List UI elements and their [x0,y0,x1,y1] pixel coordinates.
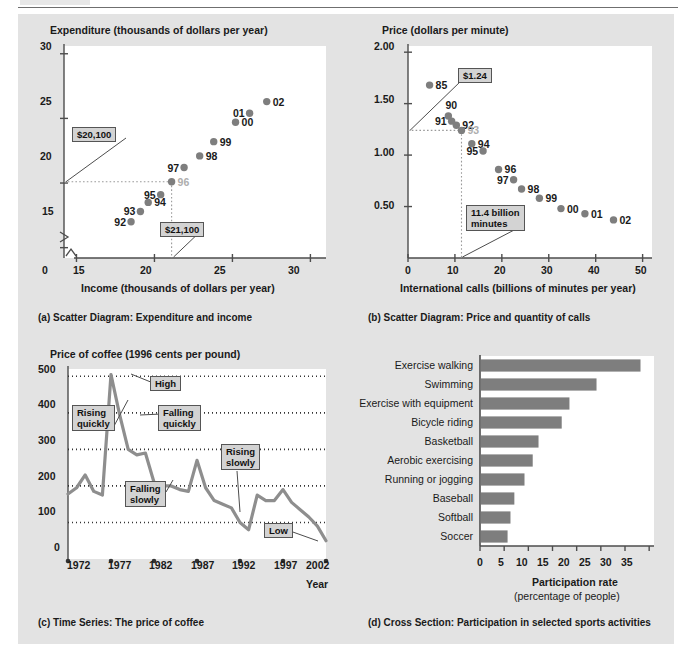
panel-d-bar-label-6: Aerobic exercising [387,454,473,466]
panel-d-graphics: Exercise walkingSwimmingExercise with eq… [346,334,674,644]
panel-a-point-01 [246,110,253,117]
panel-c-ytick-500: 500 [38,363,56,375]
panel-d-xtick-15: 15 [537,556,549,568]
panel-d-bar-label-2: Swimming [425,378,474,390]
panel-c-graphics [18,334,346,644]
panel-a-point-label-98: 98 [206,150,218,162]
panel-b-ytick-150: 1.50 [374,93,394,105]
panel-c-rising-quickly-callout: Rising quickly [72,405,115,431]
panel-b-xtick-20: 20 [494,264,506,276]
panel-d-bar-label-3: Exercise with equipment [359,397,473,409]
panel-d-bar-8 [481,492,514,504]
panel-b-xtick-0: 0 [405,264,411,276]
panel-d-bar-1 [481,359,641,371]
panel-c-high-callout: High [150,376,181,391]
panel-a-scatter-expenditure-income: Expenditure (thousands of dollars per ye… [18,14,346,334]
panel-d-bar-label-1: Exercise walking [395,359,473,371]
panel-b-quantity-leader [462,228,518,257]
panel-d-bar-5 [481,435,539,447]
panel-d-xtick-30: 30 [600,556,612,568]
panel-c-xtick-1987: 1987 [191,559,214,571]
panel-d-bar-label-5: Basketball [425,435,473,447]
panel-b-quantity-callout: 11.4 billion minutes [466,205,525,231]
panel-b-point-00 [557,205,564,212]
panel-d-x-axis-title-line2: (percentage of people) [514,590,620,602]
panel-b-ytick-100: 1.00 [374,146,394,158]
panel-d-xtick-25: 25 [579,556,591,568]
panel-a-point-92 [127,218,134,225]
panel-a-xtick-15: 15 [73,264,85,276]
panel-d-bar-4 [481,416,562,428]
panel-d-bar-6 [481,454,533,466]
panel-b-xtick-30: 30 [541,264,553,276]
page-top-rule [18,7,678,8]
panel-d-bar-label-7: Running or jogging [385,473,473,485]
panel-d-bar-label-4: Bicycle riding [411,416,473,428]
panel-c-ytick-400: 400 [38,398,56,410]
panel-c-ytick-300: 300 [38,434,56,446]
panel-b-scatter-price-quantity: Price (dollars per minute) 8590919293949… [346,14,674,334]
panel-b-x-axis-title: International calls (billions of minutes… [400,282,636,294]
panel-b-point-02 [610,216,617,223]
panel-c-rising-slowly-leader [237,471,240,512]
panel-a-xtick-20: 20 [140,264,152,276]
page-header-fragment [20,0,90,5]
panel-d-bar-2 [481,378,597,390]
panel-b-point-label-00: 00 [567,203,579,215]
panel-a-point-label-97: 97 [167,162,179,174]
panel-b-point-label-01: 01 [591,208,603,220]
panel-b-point-label-95: 95 [466,145,478,157]
panel-d-xtick-5: 5 [498,556,504,568]
panel-c-rising-slowly-callout: Rising slowly [221,444,260,470]
panel-c-timeseries-coffee: Price of coffee (1996 cents per pound) 5… [18,334,346,644]
panel-c-xtick-1997: 1997 [274,559,297,571]
panel-b-point-99 [536,195,543,202]
panel-a-ytick-30: 30 [40,40,52,52]
panel-c-ytick-0: 0 [54,541,60,553]
panel-a-xtick-30: 30 [288,264,300,276]
panel-a-xtick-0: 0 [42,264,48,276]
panel-a-expenditure-callout: $20,100 [72,127,116,142]
panel-b-xtick-40: 40 [588,264,600,276]
panel-d-bar-label-10: Soccer [440,530,473,542]
panel-a-point-00 [232,119,239,126]
panel-c-x-axis-title: Year [306,578,328,590]
panel-b-ytick-050: 0.50 [374,199,394,211]
panel-b-point-label-85: 85 [436,79,448,91]
panel-b-point-01 [581,210,588,217]
panel-a-point-02 [263,98,270,105]
panel-b-point-96 [495,166,502,173]
panel-b-point-label-02: 02 [620,214,632,226]
panel-a-ytick-20: 20 [40,150,52,162]
panel-c-low-leader [290,531,318,541]
panel-b-point-98 [518,185,525,192]
panel-a-xtick-25: 25 [214,264,226,276]
panel-a-point-label-92: 92 [114,216,126,228]
panel-c-xtick-1972: 1972 [67,559,90,571]
panel-b-point-label-91: 91 [435,115,447,127]
panel-d-bar-9 [481,511,510,523]
panel-d-xtick-10: 10 [516,556,528,568]
panel-b-point-label-90: 90 [446,99,458,111]
panel-a-point-label-02: 02 [273,96,285,108]
panel-a-point-label-99: 99 [220,136,232,148]
panel-b-price-callout: $1.24 [458,68,492,83]
panel-c-xtick-2002: 2002 [306,559,329,571]
figure-board: Expenditure (thousands of dollars per ye… [18,14,674,644]
panel-a-point-label-96: 96 [178,176,190,188]
panel-a-point-label-93: 93 [124,205,136,217]
panel-c-price-line [68,374,326,540]
panel-c-xtick-1982: 1982 [149,559,172,571]
panel-a-axis-break-icon [60,232,76,256]
panel-b-point-label-98: 98 [528,183,540,195]
panel-a-expenditure-leader [66,138,126,182]
panel-c-low-callout: Low [264,523,293,538]
panel-a-point-96 [168,178,175,185]
panel-b-point-95 [479,147,486,154]
panel-d-x-axis-title-line1: Participation rate [532,576,618,588]
panel-d-bar-label-9: Softball [438,511,473,523]
panel-a-point-97 [180,164,187,171]
panel-b-point-93 [458,127,465,134]
panel-d-xtick-20: 20 [558,556,570,568]
panel-c-xtick-1977: 1977 [108,559,131,571]
